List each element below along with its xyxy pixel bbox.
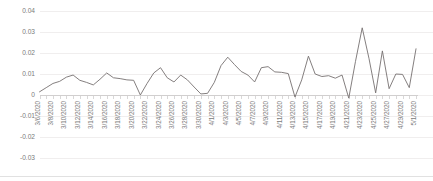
x-tick-label: 3/14/2020 — [87, 101, 94, 130]
x-tick-label: 4/11/2020 — [276, 101, 283, 129]
series-line — [40, 28, 417, 98]
line-chart-container: 0.040.030.020.010-0.01-0.02-0.03 3/6/202… — [0, 0, 433, 181]
x-tick-label: 4/7/2020 — [249, 101, 256, 126]
x-tick-label: 4/21/2020 — [343, 101, 350, 130]
x-tick-label: 3/20/2020 — [128, 101, 135, 130]
x-tick-label: 4/19/2020 — [329, 101, 336, 130]
x-tick-label: 4/29/2020 — [397, 101, 404, 130]
y-tick-label: 0 — [31, 91, 35, 98]
x-tick-label: 3/6/2020 — [34, 101, 41, 126]
x-tick-label: 3/24/2020 — [155, 101, 162, 130]
x-tick-label: 4/3/2020 — [222, 101, 229, 126]
x-tick-label: 4/13/2020 — [289, 101, 296, 130]
y-tick-label: 0.03 — [22, 28, 35, 35]
x-tick-label: 3/16/2020 — [101, 101, 108, 130]
x-tick-label: 4/15/2020 — [302, 101, 309, 130]
x-tick-label: 3/28/2020 — [181, 101, 188, 130]
x-tick-label: 3/30/2020 — [195, 101, 202, 130]
x-tick-label: 3/8/2020 — [47, 101, 54, 126]
x-tick-label: 3/22/2020 — [141, 101, 148, 130]
data-series — [40, 28, 417, 98]
y-tick-label: 0.01 — [22, 70, 35, 77]
x-tick-label: 4/5/2020 — [235, 101, 242, 126]
x-tick-label: 4/27/2020 — [383, 101, 390, 130]
y-tick-label: 0.04 — [22, 7, 35, 14]
x-tick-label: 4/23/2020 — [356, 101, 363, 130]
x-tick-label: 3/12/2020 — [74, 101, 81, 130]
y-tick-label: -0.02 — [20, 133, 35, 140]
x-tick-label: 4/25/2020 — [370, 101, 377, 130]
y-tick-label: 0.02 — [22, 49, 35, 56]
x-tick-label: 4/17/2020 — [316, 101, 323, 130]
x-tick-label: 3/18/2020 — [114, 101, 121, 130]
x-tick-label: 3/26/2020 — [168, 101, 175, 130]
x-tick-label: 5/1/2020 — [410, 101, 417, 126]
x-tick-label: 4/9/2020 — [262, 101, 269, 126]
chart-canvas: 0.040.030.020.010-0.01-0.02-0.03 3/6/202… — [0, 0, 433, 181]
x-axis-tickmarks — [40, 96, 417, 99]
y-tick-label: -0.03 — [20, 154, 35, 161]
x-axis-tick-labels: 3/6/20203/8/20203/10/20203/12/20203/14/2… — [34, 101, 418, 130]
x-tick-label: 4/1/2020 — [208, 101, 215, 126]
y-axis-tick-labels: 0.040.030.020.010-0.01-0.02-0.03 — [20, 7, 35, 161]
x-tick-label: 3/10/2020 — [60, 101, 67, 130]
